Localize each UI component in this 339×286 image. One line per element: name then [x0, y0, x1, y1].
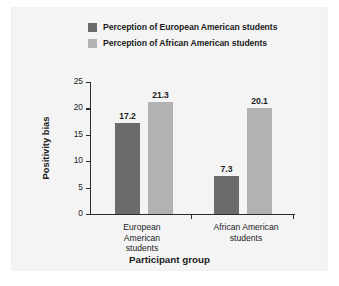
- bar-value-label: 17.2: [119, 111, 136, 121]
- y-tick-label: 5: [78, 182, 83, 192]
- chart-figure: Perception of European American students…: [12, 8, 327, 270]
- category-line: students: [92, 243, 192, 254]
- category-line: European: [92, 222, 192, 233]
- bar-group1-series2: 21.3: [148, 102, 173, 215]
- y-tick-10: 10: [86, 161, 90, 162]
- category-line: students: [194, 233, 298, 244]
- y-tick-15: 15: [86, 135, 90, 136]
- x-axis-title: Participant group: [12, 254, 327, 265]
- y-tick-20: 20: [86, 108, 90, 109]
- y-axis-title: Positivity bias: [38, 82, 52, 214]
- legend-item-african-american: Perception of African American students: [88, 36, 328, 50]
- y-tick-25: 25: [86, 82, 90, 83]
- plot-area: 25 20 15 10 5 0 17.2 21.3 7.3 20.1: [90, 82, 295, 214]
- legend-swatch-icon: [88, 39, 97, 48]
- bar-value-label: 20.1: [251, 96, 268, 106]
- category-line: African American: [194, 222, 298, 233]
- bar-value-label: 21.3: [152, 90, 169, 100]
- y-tick-label: 0: [78, 208, 83, 218]
- x-axis-line: [90, 214, 295, 215]
- y-tick-5: 5: [86, 188, 90, 189]
- y-tick-label: 10: [74, 155, 83, 165]
- category-line: American: [92, 233, 192, 244]
- y-tick-label: 25: [74, 76, 83, 86]
- legend-item-label: Perception of European American students: [103, 22, 277, 32]
- bar-value-label: 7.3: [221, 164, 233, 174]
- bar-group2-series1: 7.3: [214, 176, 239, 215]
- legend-swatch-icon: [88, 23, 97, 32]
- x-category-label-african: African American students: [194, 222, 298, 243]
- bar-group2-series2: 20.1: [247, 108, 272, 214]
- bar-group1-series1: 17.2: [115, 123, 140, 214]
- y-axis-line: [90, 82, 91, 214]
- legend-item-european-american: Perception of European American students: [88, 20, 328, 34]
- x-category-label-european: European American students: [92, 222, 192, 254]
- legend-item-label: Perception of African American students: [103, 38, 267, 48]
- x-tick-divider: [191, 214, 192, 219]
- y-tick-0: 0: [86, 214, 90, 215]
- x-tick-end: [293, 214, 294, 219]
- y-tick-label: 15: [74, 129, 83, 139]
- chart-legend: Perception of European American students…: [88, 20, 328, 52]
- y-tick-label: 20: [74, 102, 83, 112]
